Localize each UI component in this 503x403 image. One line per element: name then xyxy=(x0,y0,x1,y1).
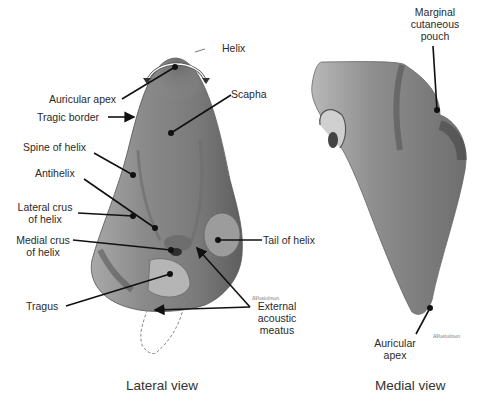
label-auricular-apex: Auricular apex xyxy=(49,93,116,105)
label-lateral-crus: Lateral crus of helix xyxy=(14,201,76,225)
label-helix: Helix xyxy=(222,42,245,54)
label-auricular-apex-medial: Auricular apex xyxy=(370,337,420,361)
label-tragic-border: Tragic border xyxy=(37,111,99,123)
label-external-acoustic-meatus: External acoustic meatus xyxy=(252,300,302,336)
label-antihelix: Antihelix xyxy=(35,167,75,179)
label-spine-of-helix: Spine of helix xyxy=(23,141,86,153)
label-marginal-cutaneous-pouch: Marginal cutaneous pouch xyxy=(406,6,464,42)
caption-lateral-view: Lateral view xyxy=(126,378,198,393)
medial-ear-drawing xyxy=(312,62,466,315)
artist-signature-lateral: RPostalman xyxy=(252,295,279,301)
label-scapha: Scapha xyxy=(231,88,267,100)
label-medial-crus: Medial crus of helix xyxy=(12,234,74,258)
ear-anatomy-figure: Helix Auricular apex Scapha Tragic borde… xyxy=(0,0,503,403)
label-tragus: Tragus xyxy=(26,300,58,312)
caption-medial-view: Medial view xyxy=(375,378,446,393)
label-tail-of-helix: Tail of helix xyxy=(263,234,315,246)
artist-signature-medial: RPostalman xyxy=(433,333,460,339)
